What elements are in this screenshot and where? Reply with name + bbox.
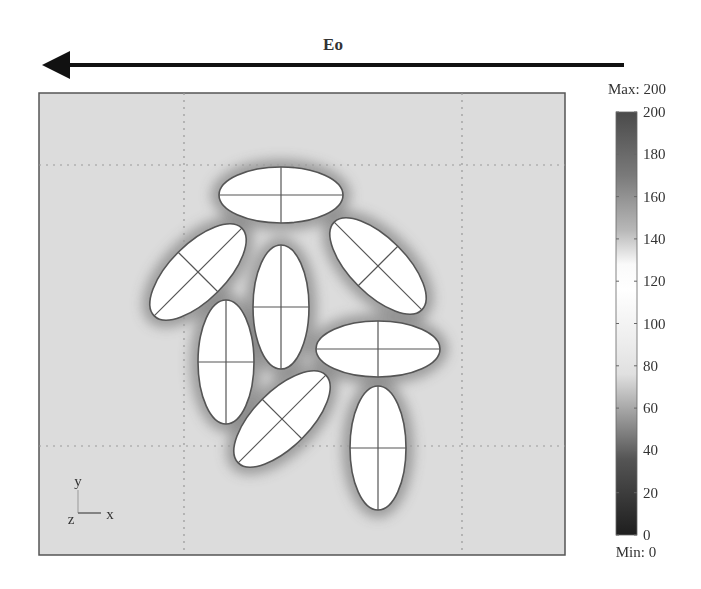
colorbar-tick-label: 60 bbox=[643, 400, 658, 416]
particle-center-vertical bbox=[253, 245, 309, 369]
field-plot: y z x bbox=[39, 93, 565, 555]
colorbar-tick-label: 200 bbox=[643, 104, 666, 120]
colorbar-tick-label: 120 bbox=[643, 273, 666, 289]
particle-top-horizontal bbox=[219, 167, 343, 223]
field-diagram: Eo y z x Max: 200 2001801601401201008060… bbox=[0, 0, 701, 589]
colorbar-tick-label: 0 bbox=[643, 527, 651, 543]
colorbar-max-label: Max: 200 bbox=[608, 81, 666, 97]
triad-x-label: x bbox=[106, 506, 114, 522]
colorbar: Max: 200 200180160140120100806040200 Min… bbox=[608, 81, 666, 560]
triad-z-label: z bbox=[68, 511, 75, 527]
colorbar-tick-label: 180 bbox=[643, 146, 666, 162]
colorbar-tick-label: 100 bbox=[643, 316, 666, 332]
arrow-left-icon bbox=[42, 51, 70, 79]
colorbar-tick-label: 140 bbox=[643, 231, 666, 247]
particle-right-horizontal bbox=[316, 321, 440, 377]
field-arrow-label: Eo bbox=[323, 35, 343, 54]
colorbar-tick-label: 20 bbox=[643, 485, 658, 501]
triad-y-label: y bbox=[74, 473, 82, 489]
particle-left-vertical bbox=[198, 300, 254, 424]
colorbar-min-label: Min: 0 bbox=[616, 544, 656, 560]
field-arrow: Eo bbox=[42, 35, 624, 79]
particle-bottom-right-vertical bbox=[350, 386, 406, 510]
colorbar-tick-label: 160 bbox=[643, 189, 666, 205]
colorbar-tick-label: 40 bbox=[643, 442, 658, 458]
colorbar-tick-label: 80 bbox=[643, 358, 658, 374]
colorbar-gradient bbox=[616, 112, 637, 535]
